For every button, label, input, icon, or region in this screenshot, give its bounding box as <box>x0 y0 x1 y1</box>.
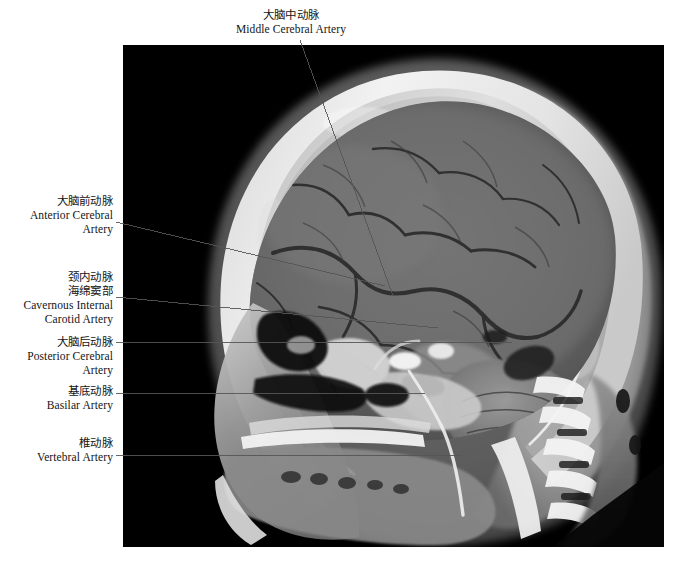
label-en: Middle Cerebral Artery <box>216 22 366 36</box>
label-en-line-1: Anterior Cerebral <box>0 208 113 222</box>
label-en: Vertebral Artery <box>0 450 113 464</box>
label-posterior-cerebral-artery: 大脑后动脉 Posterior Cerebral Artery <box>0 335 113 377</box>
scan-render <box>123 45 664 547</box>
label-zh: 大脑前动脉 <box>0 194 113 208</box>
label-vertebral-artery: 椎动脉 Vertebral Artery <box>0 436 113 464</box>
label-en-line-1: Posterior Cerebral <box>0 349 113 363</box>
label-anterior-cerebral-artery: 大脑前动脉 Anterior Cerebral Artery <box>0 194 113 236</box>
label-zh: 大脑中动脉 <box>216 8 366 22</box>
label-zh: 基底动脉 <box>0 384 113 398</box>
cranial-scan-image <box>123 45 664 547</box>
label-zh: 椎动脉 <box>0 436 113 450</box>
label-zh-line-1: 颈内动脉 <box>0 270 113 284</box>
label-en-line-1: Cavernous Internal <box>0 298 113 312</box>
label-zh-line-2: 海绵窦部 <box>0 284 113 298</box>
label-en-line-2: Artery <box>0 363 113 377</box>
label-zh: 大脑后动脉 <box>0 335 113 349</box>
label-cavernous-internal-carotid-artery: 颈内动脉 海绵窦部 Cavernous Internal Carotid Art… <box>0 270 113 326</box>
label-en: Basilar Artery <box>0 398 113 412</box>
figure-page: 大脑中动脉 Middle Cerebral Artery 大脑前动脉 Anter… <box>0 0 677 564</box>
label-middle-cerebral-artery: 大脑中动脉 Middle Cerebral Artery <box>216 8 366 36</box>
label-en-line-2: Artery <box>0 222 113 236</box>
label-en-line-2: Carotid Artery <box>0 312 113 326</box>
label-basilar-artery: 基底动脉 Basilar Artery <box>0 384 113 412</box>
